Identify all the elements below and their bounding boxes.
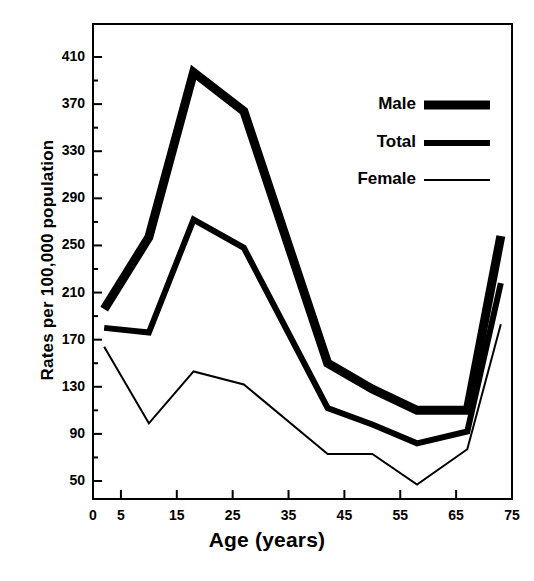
legend-label-female: Female xyxy=(306,169,416,189)
x-axis-tick-label: 65 xyxy=(436,507,476,523)
y-axis-tick-label: 170 xyxy=(41,331,85,347)
y-axis-tick-label: 370 xyxy=(41,95,85,111)
y-axis-tick-label: 50 xyxy=(41,472,85,488)
x-axis-tick-label: 25 xyxy=(213,507,253,523)
y-axis-tick-label: 90 xyxy=(41,425,85,441)
legend-label-male: Male xyxy=(306,94,416,114)
x-axis-tick-label: 55 xyxy=(380,507,420,523)
x-axis-tick-label: 75 xyxy=(492,507,532,523)
series-line-female xyxy=(104,324,501,484)
y-axis-tick-label: 410 xyxy=(41,48,85,64)
y-axis-tick-label: 210 xyxy=(41,284,85,300)
y-axis-tick-label: 330 xyxy=(41,142,85,158)
y-axis-tick-label: 250 xyxy=(41,236,85,252)
x-axis-tick-label: 5 xyxy=(101,507,141,523)
x-axis-tick-label: 45 xyxy=(324,507,364,523)
x-axis-tick-label: 35 xyxy=(269,507,309,523)
legend-label-total: Total xyxy=(306,132,416,152)
plot-frame xyxy=(93,24,512,499)
chart-container: Rates per 100,000 population Age (years)… xyxy=(0,0,534,581)
y-axis-tick-label: 290 xyxy=(41,189,85,205)
y-axis-tick-label: 130 xyxy=(41,378,85,394)
x-axis-tick-label: 15 xyxy=(157,507,197,523)
x-axis-title: Age (years) xyxy=(0,528,534,552)
